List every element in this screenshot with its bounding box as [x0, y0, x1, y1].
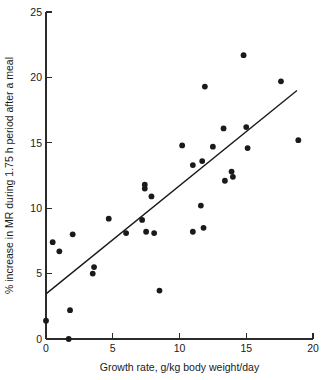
x-tick-label: 20 [307, 342, 319, 354]
y-axis-ticks: 0510152025 [30, 6, 52, 345]
data-point [210, 144, 216, 150]
data-point [278, 78, 284, 84]
plot-canvas: 0510152025 05101520 Growth rate, g/kg bo… [0, 0, 326, 380]
data-point [123, 230, 129, 236]
y-tick-label: 15 [30, 137, 42, 149]
data-point [56, 248, 62, 254]
data-point [229, 169, 235, 175]
data-point [70, 231, 76, 237]
data-point [149, 194, 155, 200]
data-point [243, 124, 249, 130]
data-point [139, 217, 145, 223]
x-tick-label: 10 [174, 342, 186, 354]
data-point [151, 230, 157, 236]
data-point [157, 288, 163, 294]
data-point [199, 158, 205, 164]
x-tick-label: 5 [110, 342, 116, 354]
data-point [67, 307, 73, 313]
data-point [221, 126, 227, 132]
y-tick-label: 0 [36, 333, 42, 345]
y-tick-label: 25 [30, 6, 42, 18]
data-point [91, 264, 97, 270]
data-point [230, 174, 236, 180]
data-point [142, 182, 148, 188]
data-point [66, 336, 72, 342]
axes-group [46, 12, 313, 339]
data-point [143, 229, 149, 235]
scatter-plot-figure: 0510152025 05101520 Growth rate, g/kg bo… [0, 0, 326, 380]
x-tick-label: 0 [43, 342, 49, 354]
data-point [90, 271, 96, 277]
y-tick-label: 10 [30, 202, 42, 214]
y-tick-label: 20 [30, 71, 42, 83]
data-point [43, 318, 49, 324]
data-point [295, 137, 301, 143]
x-axis-title: Growth rate, g/kg body weight/day [100, 361, 260, 373]
data-point [50, 239, 56, 245]
data-point [245, 145, 251, 151]
regression-line [46, 90, 297, 293]
x-axis-ticks: 05101520 [43, 333, 319, 354]
data-point [190, 162, 196, 168]
y-tick-label: 5 [36, 267, 42, 279]
data-point [202, 84, 208, 90]
data-point [179, 143, 185, 149]
data-points-group [43, 52, 301, 342]
data-point [201, 225, 207, 231]
data-point [190, 229, 196, 235]
x-tick-label: 15 [240, 342, 252, 354]
y-axis-title: % increase in MR during 1.75 h period af… [3, 57, 15, 294]
data-point [241, 52, 247, 58]
data-point [106, 216, 112, 222]
data-point [222, 178, 228, 184]
data-point [198, 203, 204, 209]
